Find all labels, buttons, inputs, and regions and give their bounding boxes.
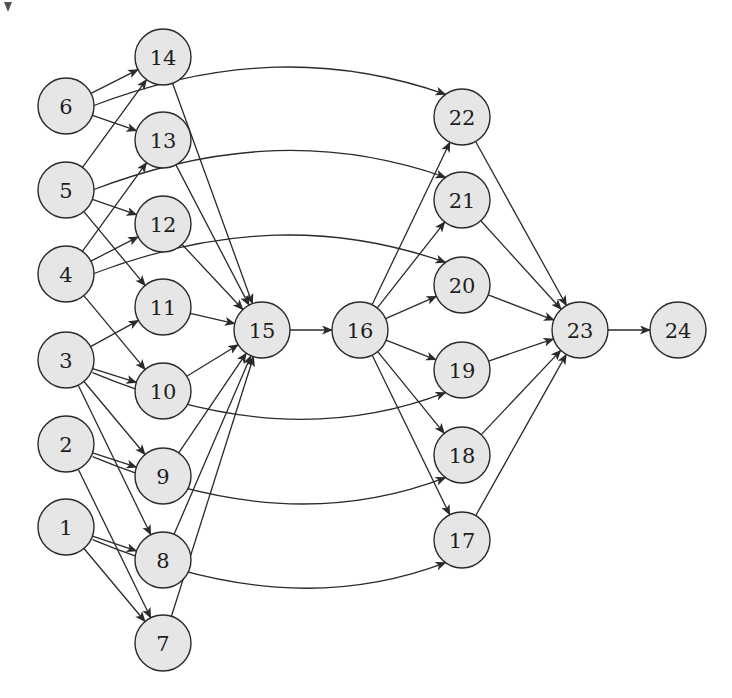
node-label: 11 — [150, 296, 177, 320]
node-label: 2 — [59, 433, 72, 457]
edge-3-to-11 — [91, 320, 139, 346]
node-label: 21 — [449, 189, 476, 213]
node-label: 24 — [665, 319, 692, 343]
edge-14-to-15 — [173, 83, 253, 303]
node-14: 14 — [135, 29, 191, 85]
node-17: 17 — [434, 512, 490, 568]
node-label: 13 — [150, 129, 177, 153]
node-label: 1 — [59, 516, 72, 540]
nodes-layer: 123456789101112131415161718192021222324 — [38, 29, 706, 671]
edge-18-to-23 — [481, 350, 561, 434]
node-22: 22 — [434, 89, 490, 145]
node-5: 5 — [38, 162, 94, 218]
node-18: 18 — [434, 427, 490, 483]
node-label: 19 — [449, 359, 476, 383]
node-label: 7 — [156, 632, 169, 656]
node-8: 8 — [135, 532, 191, 588]
edge-11-to-15 — [190, 313, 234, 323]
node-label: 23 — [567, 319, 594, 343]
node-label: 4 — [59, 263, 72, 287]
edge-16-to-19 — [386, 340, 436, 360]
node-24: 24 — [650, 302, 706, 358]
node-6: 6 — [38, 78, 94, 134]
node-16: 16 — [332, 302, 388, 358]
edge-21-to-23 — [481, 221, 561, 310]
node-label: 8 — [156, 549, 169, 573]
node-label: 22 — [449, 106, 476, 130]
node-label: 18 — [449, 444, 476, 468]
node-13: 13 — [135, 112, 191, 168]
node-4: 4 — [38, 246, 94, 302]
node-label: 20 — [449, 274, 476, 298]
edge-4-to-12 — [91, 237, 138, 261]
node-label: 3 — [59, 349, 72, 373]
node-label: 14 — [150, 46, 177, 70]
node-label: 10 — [150, 380, 177, 404]
edge-10-to-15 — [187, 345, 238, 377]
node-21: 21 — [434, 172, 490, 228]
node-23: 23 — [552, 302, 608, 358]
node-3: 3 — [38, 332, 94, 388]
edge-6-to-14 — [91, 70, 138, 94]
node-11: 11 — [135, 279, 191, 335]
node-15: 15 — [234, 302, 290, 358]
edge-20-to-23 — [488, 295, 554, 320]
node-12: 12 — [135, 196, 191, 252]
node-label: 6 — [59, 95, 72, 119]
dependency-graph: 123456789101112131415161718192021222324 — [0, 0, 732, 698]
edge-16-to-20 — [386, 296, 437, 318]
edge-16-to-21 — [377, 222, 444, 308]
node-9: 9 — [135, 448, 191, 504]
node-2: 2 — [38, 416, 94, 472]
node-label: 12 — [150, 213, 177, 237]
node-10: 10 — [135, 363, 191, 419]
node-label: 15 — [249, 319, 276, 343]
node-7: 7 — [135, 615, 191, 671]
node-1: 1 — [38, 499, 94, 555]
edge-19-to-23 — [489, 339, 554, 361]
node-label: 16 — [347, 319, 374, 343]
node-label: 9 — [156, 465, 169, 489]
node-19: 19 — [434, 342, 490, 398]
node-label: 5 — [59, 179, 72, 203]
node-20: 20 — [434, 257, 490, 313]
corner-mark-icon — [4, 2, 12, 12]
node-label: 17 — [449, 529, 476, 553]
